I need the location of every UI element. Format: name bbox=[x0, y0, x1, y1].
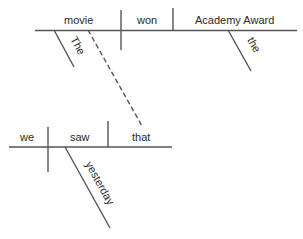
word-that: that bbox=[132, 131, 150, 143]
word-movie: movie bbox=[64, 14, 93, 26]
word-saw: saw bbox=[70, 131, 90, 143]
word-won: won bbox=[136, 14, 157, 26]
word-we: we bbox=[19, 131, 34, 143]
relative-connector-dashed bbox=[88, 30, 142, 126]
modifier-line-the-lower bbox=[228, 30, 251, 71]
word-yesterday: yesterday bbox=[83, 159, 117, 207]
word-the-lower: the bbox=[245, 35, 263, 54]
word-academy-award: Academy Award bbox=[195, 14, 274, 26]
modifier-line-the-upper bbox=[54, 30, 74, 67]
sentence-diagram: movie won Academy Award The the we saw t… bbox=[0, 0, 303, 239]
word-the-upper: The bbox=[68, 34, 88, 56]
